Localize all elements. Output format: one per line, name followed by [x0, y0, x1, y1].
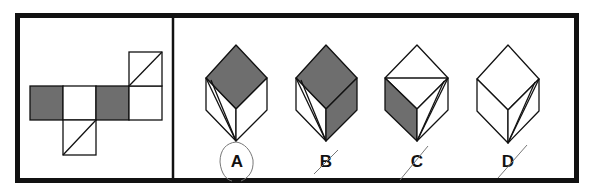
- option-a-label: A: [231, 152, 243, 171]
- option-d-cube[interactable]: [477, 45, 539, 143]
- option-c-cube[interactable]: [385, 45, 448, 141]
- cube-net: [30, 52, 162, 155]
- net-face-blank-1: [63, 86, 96, 120]
- net-face-shaded-1: [30, 86, 63, 120]
- puzzle-figure: A B C D: [0, 0, 591, 194]
- option-a-cube[interactable]: [206, 45, 267, 141]
- net-face-shaded-2: [96, 86, 129, 120]
- net-face-blank-2: [129, 86, 162, 120]
- option-b-cube[interactable]: [296, 45, 357, 141]
